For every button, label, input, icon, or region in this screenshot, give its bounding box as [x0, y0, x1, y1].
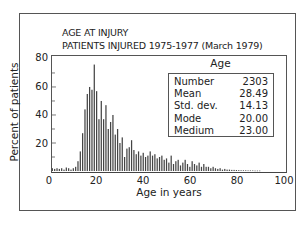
histogram-bar — [185, 160, 186, 171]
histogram-bar — [105, 105, 106, 171]
histogram-bar — [231, 170, 232, 171]
histogram-bar — [124, 157, 125, 171]
histogram-bar — [229, 170, 230, 171]
histogram-bar — [75, 167, 76, 171]
histogram-bar — [87, 94, 88, 171]
stats-table: Number 2303 Mean 28.49 Std. dev. 14.13 M… — [168, 73, 274, 137]
y-tick-label: 20 — [28, 138, 48, 149]
histogram-bar — [84, 109, 85, 171]
histogram-bar — [147, 156, 148, 171]
histogram-bar — [110, 122, 111, 171]
histogram-bar — [154, 154, 155, 171]
histogram-bar — [73, 168, 74, 171]
histogram-bar — [243, 170, 244, 171]
histogram-bar — [54, 169, 55, 171]
x-tick-label: 60 — [175, 175, 205, 186]
histogram-bar — [94, 65, 95, 171]
stats-header: Age — [156, 57, 285, 69]
histogram-bar — [219, 168, 220, 171]
histogram-bar — [187, 164, 188, 171]
histogram-bar — [82, 133, 83, 171]
histogram-bar — [210, 168, 211, 171]
histogram-bar — [164, 160, 165, 171]
histogram-bar — [192, 161, 193, 171]
histogram-bar — [103, 119, 104, 171]
histogram-bar — [140, 156, 141, 171]
histogram-bar — [196, 165, 197, 171]
chart-title: AGE AT INJURY — [62, 27, 128, 38]
x-tick-label: 80 — [222, 175, 252, 186]
histogram-bar — [138, 151, 139, 171]
histogram-bar — [180, 165, 181, 171]
stat-label: Mean — [174, 88, 201, 100]
histogram-bar — [152, 156, 153, 171]
histogram-bar — [63, 170, 64, 171]
histogram-bar — [233, 170, 234, 171]
histogram-bar — [161, 156, 162, 171]
stat-row-mean: Mean 28.49 — [174, 88, 268, 100]
histogram-bar — [166, 158, 167, 171]
stat-value: 14.13 — [239, 100, 268, 112]
histogram-bar — [126, 149, 127, 171]
histogram-bar — [143, 153, 144, 171]
histogram-bar — [133, 150, 134, 171]
histogram-bar — [247, 170, 248, 171]
histogram-bar — [77, 161, 78, 171]
histogram-bar — [70, 170, 71, 171]
stat-value: 20.00 — [239, 113, 268, 125]
histogram-bar — [52, 168, 53, 171]
histogram-bar — [117, 129, 118, 171]
histogram-bar — [236, 170, 237, 171]
histogram-bar — [206, 167, 207, 171]
histogram-bar — [56, 168, 57, 171]
histogram-bar — [254, 171, 255, 172]
histogram-bar — [217, 169, 218, 171]
stat-row-std-dev: Std. dev. 14.13 — [174, 100, 268, 112]
histogram-bar — [213, 167, 214, 171]
histogram-bar — [203, 164, 204, 171]
histogram-bar — [222, 170, 223, 171]
histogram-bar — [259, 171, 260, 172]
chart-subtitle: PATIENTS INJURED 1975-1977 (March 1979) — [62, 40, 263, 51]
y-tick-label: 40 — [28, 109, 48, 120]
histogram-bar — [182, 163, 183, 171]
histogram-bar — [115, 135, 116, 171]
stat-label: Std. dev. — [174, 100, 218, 112]
histogram-bar — [224, 169, 225, 171]
histogram-bar — [194, 164, 195, 171]
histogram-bar — [129, 147, 130, 171]
histogram-bar — [136, 154, 137, 171]
y-tick-label: 60 — [28, 81, 48, 92]
histogram-bar — [150, 151, 151, 171]
histogram-bar — [168, 163, 169, 171]
histogram-bar — [208, 167, 209, 171]
stat-label: Mode — [174, 113, 201, 125]
histogram-bar — [215, 168, 216, 171]
histogram-bar — [61, 168, 62, 171]
histogram-bar — [240, 170, 241, 171]
y-axis-label: Percent of patients — [8, 62, 20, 161]
histogram-bar — [250, 170, 251, 171]
stat-label: Number — [174, 76, 214, 88]
histogram-bar — [68, 168, 69, 171]
stat-row-mode: Mode 20.00 — [174, 113, 268, 125]
histogram-bar — [122, 137, 123, 171]
stat-label: Medium — [174, 125, 214, 137]
histogram-bar — [101, 101, 102, 171]
histogram-bar — [131, 140, 132, 171]
stat-row-number: Number 2303 — [174, 76, 268, 88]
histogram-bar — [252, 170, 253, 171]
y-tick-label: 80 — [28, 52, 48, 63]
x-tick-label: 100 — [269, 175, 299, 186]
x-tick-label: 0 — [34, 175, 64, 186]
histogram-bar — [112, 115, 113, 171]
histogram-bar — [96, 91, 97, 171]
histogram-bar — [257, 171, 258, 172]
histogram-bar — [108, 129, 109, 171]
histogram-bar — [173, 164, 174, 171]
histogram-bar — [226, 170, 227, 171]
histogram-bar — [119, 143, 120, 171]
histogram-bar — [89, 87, 90, 171]
stat-value: 28.49 — [239, 88, 268, 100]
x-tick-label: 20 — [81, 175, 111, 186]
